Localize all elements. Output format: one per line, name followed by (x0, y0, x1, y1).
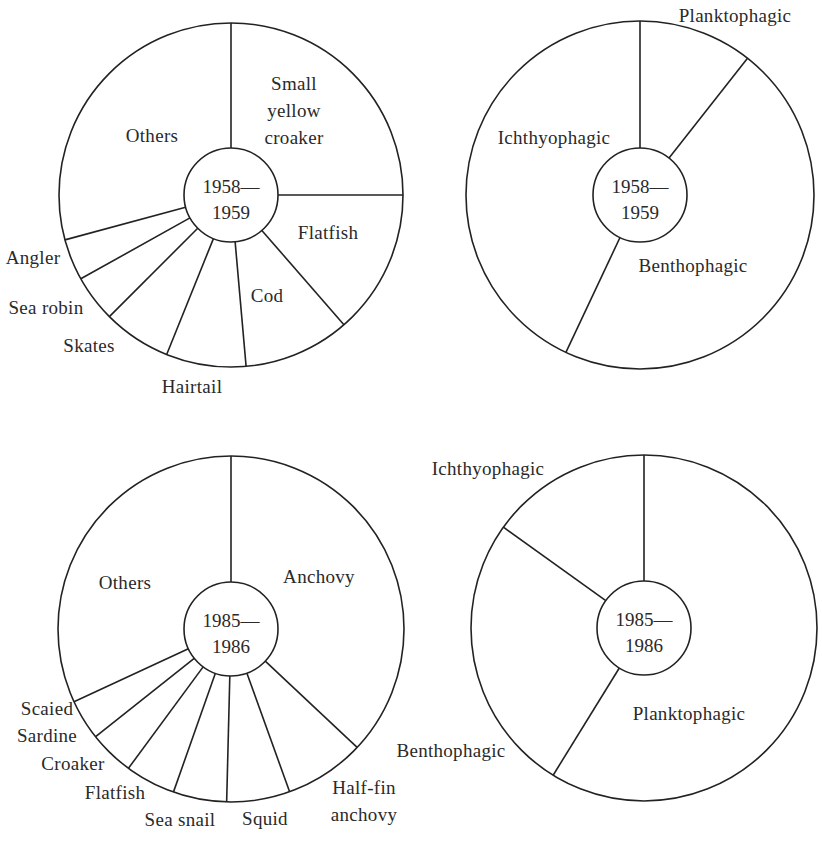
slice-divider (81, 218, 190, 279)
slice-label-small-yellow-croaker: croaker (264, 128, 323, 147)
slice-label-hairtail: Hairtail (162, 377, 222, 396)
center-period-label: 1959 (212, 203, 250, 222)
slice-divider (96, 658, 195, 736)
slice-label-sea-snail: Sea snail (145, 810, 216, 829)
slice-divider (167, 239, 214, 355)
slice-label-planktophagic: Planktophagic (633, 704, 746, 723)
slice-label-flatfish: Flatfish (85, 783, 145, 802)
center-period-label: 1958— (203, 177, 260, 196)
slice-label-ichthyophagic: Ichthyophagic (498, 128, 611, 147)
slice-label-squid: Squid (242, 809, 288, 828)
slice-divider (227, 676, 230, 802)
figure: 1958—1959SmallyellowcroakerFlatfishCodHa… (0, 0, 822, 842)
center-period-label: 1985— (616, 610, 673, 629)
slice-divider (262, 230, 344, 324)
slice-label-small-yellow-croaker: yellow (267, 101, 321, 120)
slice-label-scaied-sardine: Sardine (17, 726, 77, 745)
center-period-label: 1986 (625, 636, 663, 655)
slice-label-others: Others (126, 126, 178, 145)
slice-label-small-yellow-croaker: Small (271, 74, 317, 93)
slice-divider (669, 58, 747, 158)
center-period-label: 1958— (612, 177, 669, 196)
slice-label-planktophagic: Planktophagic (679, 6, 792, 25)
slice-divider (235, 242, 246, 367)
slice-divider (109, 228, 197, 316)
slice-label-half-fin-anchovy: anchovy (331, 805, 397, 824)
slice-label-skates: Skates (63, 336, 114, 355)
slice-divider (74, 649, 188, 702)
center-period-label: 1959 (621, 203, 659, 222)
slice-divider (265, 661, 357, 747)
slice-divider (65, 207, 186, 240)
slice-label-benthophagic: Benthophagic (638, 256, 747, 275)
slice-label-angler: Angler (6, 248, 61, 267)
slice-label-half-fin-anchovy: Half-fin (332, 778, 396, 797)
slice-label-anchovy: Anchovy (283, 567, 355, 586)
slice-divider (566, 238, 620, 353)
slice-divider (128, 667, 203, 768)
slice-label-croaker: Croaker (41, 754, 104, 773)
slice-label-ichthyophagic: Ichthyophagic (432, 459, 545, 478)
center-period-label: 1985— (203, 611, 260, 630)
slice-label-flatfish: Flatfish (298, 223, 358, 242)
slice-label-sea-robin: Sea robin (9, 298, 84, 317)
slice-divider (247, 673, 290, 792)
slice-label-others: Others (99, 573, 151, 592)
slice-label-cod: Cod (251, 286, 284, 305)
slice-divider (503, 527, 605, 600)
slice-label-scaied-sardine: Scaied (21, 699, 73, 718)
slice-divider (173, 673, 215, 792)
slice-divider (553, 668, 619, 775)
center-period-label: 1986 (212, 637, 250, 656)
slice-label-benthophagic: Benthophagic (396, 741, 505, 760)
